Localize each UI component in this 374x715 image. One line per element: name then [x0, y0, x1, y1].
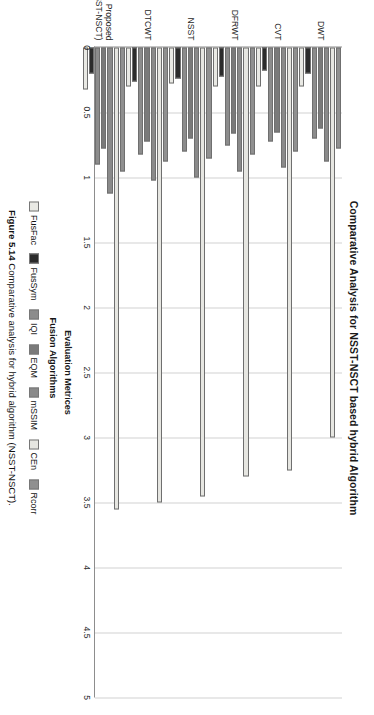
bar-row	[312, 47, 317, 697]
bar	[305, 47, 310, 73]
category-label: DTCWT	[142, 9, 151, 40]
legend-swatch	[29, 479, 39, 489]
value-axis-title: Evaluation Metrices	[63, 47, 73, 697]
bar-row	[330, 47, 335, 697]
bar	[163, 47, 168, 161]
bar-group: CVT	[255, 47, 298, 697]
caption-label: Figure 5.14	[7, 210, 18, 261]
bar	[182, 47, 187, 151]
bar-row	[250, 47, 255, 697]
bar	[318, 47, 323, 128]
bar	[132, 47, 137, 81]
bar	[293, 47, 298, 151]
bar	[262, 47, 267, 70]
bar	[250, 47, 255, 154]
bar	[213, 47, 218, 86]
bar-row	[305, 47, 310, 697]
chart-title: Comparative Analysis for NSST-NSCT based…	[346, 0, 374, 715]
axis-tick-label: 5	[82, 695, 92, 700]
legend-label: IQI	[29, 322, 39, 334]
category-label: Proposed(NSST-NSCT)	[95, 0, 114, 40]
axis-tick-label: 1	[82, 175, 92, 180]
bar	[299, 47, 304, 86]
figure-caption: Figure 5.14 Comparative analysis for hyb…	[7, 0, 18, 715]
bar-row	[219, 47, 224, 697]
bar-row	[175, 47, 180, 697]
bar-row	[194, 47, 199, 697]
bar	[101, 47, 106, 148]
bar	[107, 47, 112, 193]
bar	[169, 47, 174, 83]
legend-item: Rcorr	[29, 479, 39, 515]
bar-row	[274, 47, 279, 697]
legend-item: EQM	[29, 344, 39, 378]
bar	[188, 47, 193, 138]
axis-tick-label: 4	[82, 565, 92, 570]
bar-row	[157, 47, 162, 697]
legend-swatch	[29, 309, 39, 319]
rotated-figure-wrapper: Comparative Analysis for NSST-NSCT based…	[0, 0, 374, 715]
legend-swatch	[29, 387, 39, 397]
legend-item: FusSym	[29, 253, 39, 300]
bar-row	[138, 47, 143, 697]
bar-row	[151, 47, 156, 697]
bar	[120, 47, 125, 171]
bar-row	[336, 47, 341, 697]
bar-row	[256, 47, 261, 697]
bar-row	[114, 47, 119, 697]
legend-item: mSSIM	[29, 387, 39, 430]
bar-row	[281, 47, 286, 697]
bar-row	[293, 47, 298, 697]
bar-row	[132, 47, 137, 697]
axis-tick-label: 1.5	[82, 236, 92, 248]
legend-swatch	[29, 439, 39, 449]
legend-label: CEn	[29, 452, 39, 470]
bar-group: DWT	[299, 47, 342, 697]
axis-tick-label: 3	[82, 435, 92, 440]
bar-row	[213, 47, 218, 697]
legend-label: EQM	[29, 357, 39, 378]
axis-tick-label: 3.5	[82, 496, 92, 508]
bar-row	[182, 47, 187, 697]
legend-label: mSSIM	[29, 400, 39, 430]
bar	[231, 47, 236, 133]
axis-tick-label: 4.5	[82, 626, 92, 638]
bar	[151, 47, 156, 180]
plot-area: DWTCVTDFRWTNSSTDTCWTProposed(NSST-NSCT) …	[94, 46, 342, 697]
legend-label: FusSym	[29, 267, 39, 300]
value-axis-ticks: 00.511.522.533.544.55	[78, 47, 92, 697]
bar-row	[237, 47, 242, 697]
bar	[219, 47, 224, 76]
category-axis-title: Fusion Algorithms	[48, 0, 58, 715]
caption-text: Comparative analysis for hybrid algorith…	[7, 263, 18, 506]
bar-row	[120, 47, 125, 697]
bar-row	[262, 47, 267, 697]
legend-swatch	[29, 344, 39, 354]
bar	[274, 47, 279, 132]
bar-row	[324, 47, 329, 697]
bar	[336, 47, 341, 148]
bar	[126, 47, 131, 86]
category-label: DWT	[316, 20, 325, 40]
bar-row	[244, 47, 249, 697]
bar-row	[145, 47, 150, 697]
bar	[324, 47, 329, 161]
bar-row	[318, 47, 323, 697]
bar-row	[126, 47, 131, 697]
bar	[256, 47, 261, 86]
legend-item: FusFac	[29, 201, 39, 245]
bar-group: DTCWT	[125, 47, 168, 697]
category-label: DFRWT	[229, 9, 238, 40]
axis-tick-label: 2	[82, 305, 92, 310]
bar	[194, 47, 199, 177]
bar-row	[206, 47, 211, 697]
category-label: NSST	[186, 17, 195, 40]
bar-row	[169, 47, 174, 697]
bar	[145, 47, 150, 141]
bar-group: NSST	[169, 47, 212, 697]
bar	[95, 47, 100, 164]
legend-item: CEn	[29, 439, 39, 470]
legend-item: IQI	[29, 309, 39, 335]
bar	[330, 47, 335, 437]
bar	[138, 47, 143, 154]
